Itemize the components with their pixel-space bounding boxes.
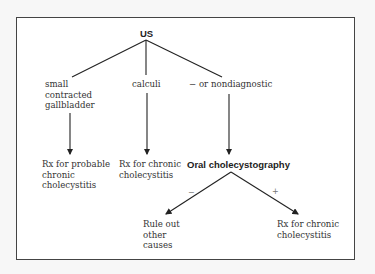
node-rx-chronic-cholecystitis-2: Rx for chronic cholecystitis xyxy=(277,219,339,240)
node-oral-cholecystography: Oral cholecystography xyxy=(187,159,290,170)
node-us: US xyxy=(140,28,153,39)
node-calculi: calculi xyxy=(132,79,161,90)
node-small-contracted-gallbladder: small contracted gallbladder xyxy=(45,79,95,111)
sign-negative: − xyxy=(188,188,195,197)
node-rx-probable-chronic-cholecystitis: Rx for probable chronic cholecystitis xyxy=(42,159,110,191)
node-rx-chronic-cholecystitis-1: Rx for chronic cholecystitis xyxy=(119,159,181,180)
node-negative-or-nondiagnostic: − or nondiagnostic xyxy=(189,79,272,90)
node-rule-out-other-causes: Rule out other causes xyxy=(143,219,180,251)
sign-positive: + xyxy=(272,187,279,196)
